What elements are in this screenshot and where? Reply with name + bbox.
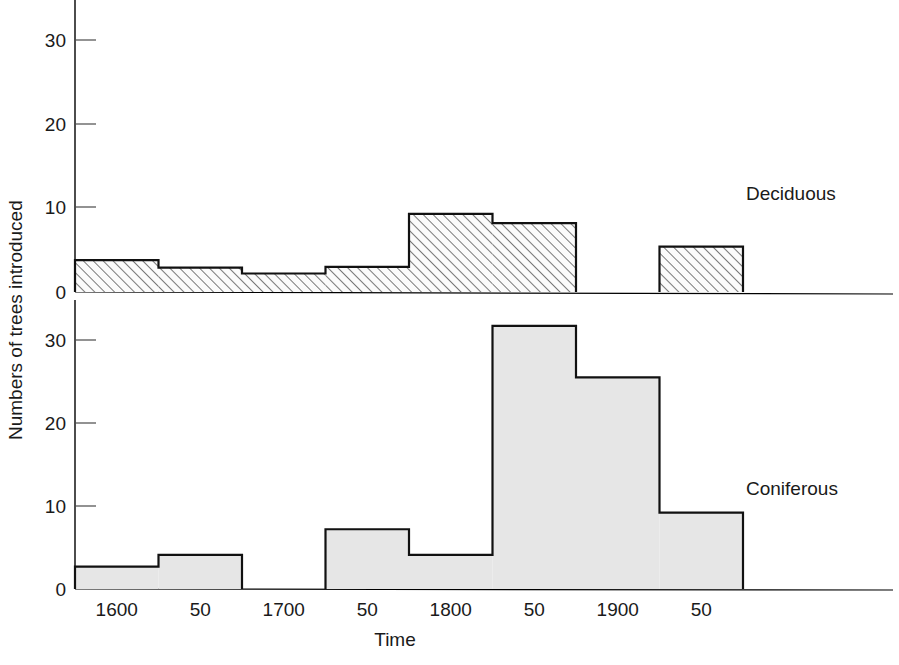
bar-deciduous-4 xyxy=(409,214,493,292)
bottom-panel-coniferous: 30 20 10 0 Coniferous xyxy=(45,300,893,600)
x-tick-label-6: 1900 xyxy=(597,599,639,620)
x-tick-label-5: 50 xyxy=(524,599,545,620)
x-tick-label-0: 1600 xyxy=(96,599,138,620)
bar-coniferous-0 xyxy=(75,567,159,589)
top-y-ticks xyxy=(75,40,96,207)
series-label-coniferous: Coniferous xyxy=(746,478,838,499)
top-y-tick-label-20: 20 xyxy=(45,114,66,135)
x-tick-label-3: 50 xyxy=(357,599,378,620)
bottom-y-tick-label-10: 10 xyxy=(45,496,66,517)
x-axis: 160050170050180050190050 Time xyxy=(96,599,712,650)
bottom-y-tick-label-30: 30 xyxy=(45,330,66,351)
bar-coniferous-1 xyxy=(159,555,243,589)
x-tick-label-2: 1700 xyxy=(263,599,305,620)
y-axis-title: Numbers of trees introduced xyxy=(5,200,26,440)
bottom-y-ticks xyxy=(75,340,96,506)
top-y-tick-label-10: 10 xyxy=(45,197,66,218)
figure-container: 30 20 10 0 Deciduous 30 20 xyxy=(0,0,899,665)
x-tick-labels: 160050170050180050190050 xyxy=(96,599,712,620)
top-baseline xyxy=(75,292,893,294)
x-tick-label-4: 1800 xyxy=(430,599,472,620)
bar-coniferous-7 xyxy=(660,513,744,589)
bar-coniferous-6 xyxy=(576,377,660,589)
x-axis-title: Time xyxy=(374,629,416,650)
top-panel-deciduous: 30 20 10 0 Deciduous xyxy=(45,0,893,303)
bar-deciduous-2 xyxy=(242,274,326,292)
histogram-chart: 30 20 10 0 Deciduous 30 20 xyxy=(0,0,899,665)
x-tick-label-7: 50 xyxy=(691,599,712,620)
bar-coniferous-5 xyxy=(493,326,577,589)
x-tick-label-1: 50 xyxy=(190,599,211,620)
bar-coniferous-4 xyxy=(409,555,493,589)
bar-deciduous-0 xyxy=(75,260,159,292)
bar-deciduous-7 xyxy=(660,247,744,292)
top-y-tick-label-0: 0 xyxy=(55,282,66,303)
bar-deciduous-3 xyxy=(326,267,410,292)
bottom-y-tick-label-0: 0 xyxy=(55,579,66,600)
top-y-tick-label-30: 30 xyxy=(45,30,66,51)
bottom-baseline xyxy=(75,589,893,590)
bar-coniferous-3 xyxy=(326,529,410,589)
series-label-deciduous: Deciduous xyxy=(746,183,836,204)
bottom-y-tick-label-20: 20 xyxy=(45,413,66,434)
bar-deciduous-5 xyxy=(493,223,577,292)
bar-deciduous-1 xyxy=(159,268,243,292)
